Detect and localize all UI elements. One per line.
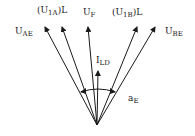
arc-arrow-left-icon [80, 88, 86, 94]
vector-u-be [97, 27, 155, 125]
vector-i-ld [97, 71, 98, 125]
phasor-vectors [0, 0, 195, 136]
label-u1a-l: (U1A)L [37, 6, 67, 17]
label-i-ld: ILD [96, 56, 110, 67]
label-u-be: UBE [165, 27, 183, 38]
label-u-ae: UAE [15, 27, 33, 38]
phasor-diagram: UAE (U1A)L UF (U1B)L UBE ILD aE [0, 0, 195, 136]
label-u-f: UF [83, 8, 95, 19]
arc-arrow-right-icon [110, 88, 116, 94]
vector-u1b-l [97, 27, 137, 125]
label-u1b-l: (U1B)L [112, 8, 142, 19]
label-angle: aE [128, 94, 139, 105]
vector-u1a-l [62, 27, 97, 125]
